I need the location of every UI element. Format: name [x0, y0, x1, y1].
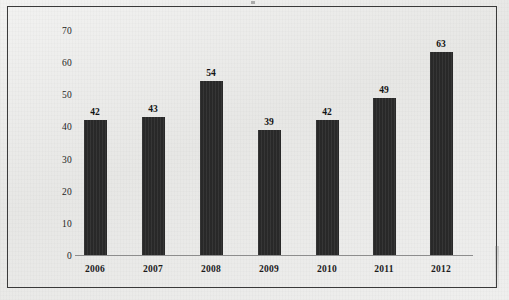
x-tick-label-2010: 2010: [303, 264, 351, 274]
chart-screenshot: 70 60 50 40 30 20 10 0 42 43 54 39 42 49…: [0, 0, 509, 300]
y-tick-label-0: 0: [46, 251, 72, 261]
bar-value-2011: 49: [364, 85, 404, 95]
bar-value-2007: 43: [133, 104, 173, 114]
bar-value-2009: 39: [249, 117, 289, 127]
bar-2011: [373, 98, 396, 255]
bar-value-2010: 42: [307, 107, 347, 117]
y-tick-label-20: 20: [46, 187, 72, 197]
bar-value-2012: 63: [421, 39, 461, 49]
bar-2009: [258, 130, 281, 255]
y-tick-label-30: 30: [46, 155, 72, 165]
x-tick-label-2008: 2008: [187, 264, 235, 274]
x-tick-label-2011: 2011: [360, 264, 408, 274]
bar-value-2006: 42: [75, 107, 115, 117]
y-tick-label-70: 70: [46, 26, 72, 36]
bar-2010: [316, 120, 339, 255]
bar-value-2008: 54: [191, 68, 231, 78]
y-tick-label-10: 10: [46, 219, 72, 229]
bar-2006: [84, 120, 107, 255]
bar-2012: [430, 52, 453, 255]
y-tick-label-60: 60: [46, 58, 72, 68]
bar-2007: [142, 117, 165, 255]
y-tick-label-50: 50: [46, 90, 72, 100]
x-tick-label-2009: 2009: [245, 264, 293, 274]
x-axis-baseline: [75, 255, 473, 256]
bar-2008: [200, 81, 223, 255]
plot-area: 70 60 50 40 30 20 10 0 42 43 54 39 42 49…: [0, 0, 509, 300]
x-tick-label-2007: 2007: [129, 264, 177, 274]
x-tick-label-2012: 2012: [417, 264, 465, 274]
y-tick-label-40: 40: [46, 122, 72, 132]
x-tick-label-2006: 2006: [71, 264, 119, 274]
